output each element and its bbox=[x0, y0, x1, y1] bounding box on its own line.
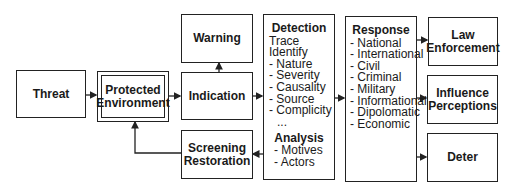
response-item: - Economic bbox=[350, 119, 416, 131]
indication-node: Indication bbox=[181, 72, 253, 120]
warning-label: Warning bbox=[193, 32, 241, 45]
detection-node: Detection Trace Identify - Nature - Seve… bbox=[263, 14, 335, 180]
protected-environment-node: Protected Environment bbox=[97, 71, 169, 122]
enforcement-label: Enforcement bbox=[426, 42, 499, 55]
threat-node: Threat bbox=[16, 70, 86, 118]
influence-perceptions-node: Influence Perceptions bbox=[427, 75, 498, 124]
indication-label: Indication bbox=[189, 90, 246, 103]
detection-item: ... bbox=[269, 117, 334, 129]
protected-label: Protected bbox=[96, 84, 169, 97]
deter-label: Deter bbox=[447, 151, 478, 164]
influence-label: Influence bbox=[428, 87, 497, 100]
response-node: Response - National - International - Ci… bbox=[345, 16, 417, 182]
screening-label: Screening bbox=[184, 142, 251, 155]
response-title: Response bbox=[346, 25, 416, 37]
restoration-label: Restoration bbox=[184, 155, 251, 168]
law-label: Law bbox=[426, 29, 499, 42]
environment-label: Environment bbox=[96, 97, 169, 110]
warning-node: Warning bbox=[181, 14, 253, 63]
analysis-item: - Actors bbox=[274, 157, 334, 169]
threat-label: Threat bbox=[33, 88, 70, 101]
deter-node: Deter bbox=[427, 133, 498, 182]
detection-title: Detection bbox=[264, 23, 334, 35]
law-enforcement-node: Law Enforcement bbox=[428, 17, 498, 66]
perceptions-label: Perceptions bbox=[428, 100, 497, 113]
screening-restoration-node: Screening Restoration bbox=[181, 130, 253, 179]
